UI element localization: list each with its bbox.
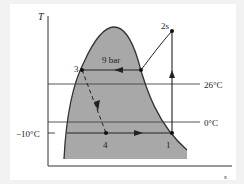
tick-minus10-label: −10°C: [16, 129, 40, 139]
t-axis-label: T: [38, 11, 45, 22]
ts-diagram: T s 26°C 0°C −10°C 9 bar 1 2s 3 4: [0, 0, 244, 184]
state-label-3: 3: [74, 64, 79, 74]
state-label-4: 4: [103, 140, 108, 150]
isotherm-0c-label: 0°C: [204, 118, 218, 128]
state-label-1: 1: [166, 140, 171, 150]
state-label-2s: 2s: [161, 21, 170, 31]
s-axis-label: s: [224, 173, 227, 181]
isotherm-26c-label: 26°C: [204, 80, 223, 90]
state-point-sat-vapor: [139, 68, 143, 72]
process-2s-sat: [141, 31, 172, 70]
pressure-label: 9 bar: [102, 55, 120, 65]
arrow-1-2s-icon: [169, 70, 175, 78]
state-point-4: [104, 131, 108, 135]
state-point-3: [80, 68, 84, 72]
state-point-2s: [170, 29, 174, 33]
state-point-1: [170, 131, 174, 135]
